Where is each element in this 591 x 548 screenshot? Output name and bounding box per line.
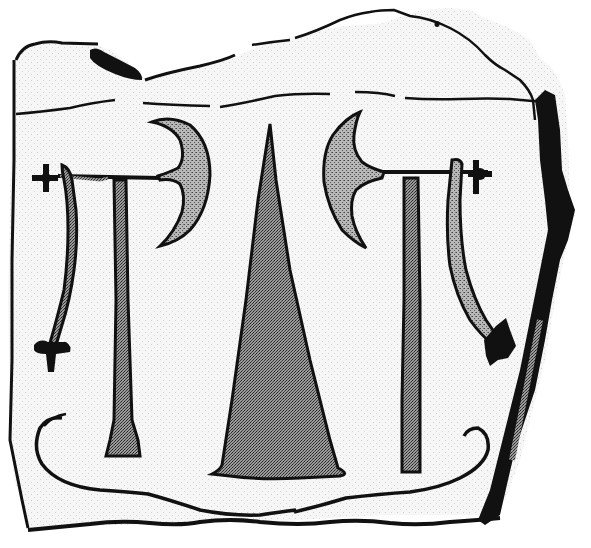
carved-stone-illustration bbox=[0, 0, 591, 548]
right-axe-handle bbox=[402, 178, 420, 472]
stone-drawing bbox=[0, 0, 591, 548]
stone-dot bbox=[435, 21, 440, 27]
